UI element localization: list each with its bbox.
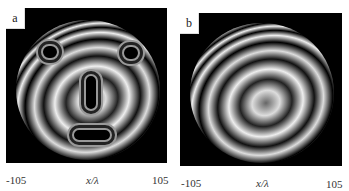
x-axis-max-b: 105 <box>326 178 343 190</box>
x-axis-min-a: -105 <box>6 174 26 186</box>
fringe-pattern-b <box>180 13 342 166</box>
panel-label-a: a <box>6 8 25 29</box>
x-axis-title-a: x/λ <box>86 174 99 186</box>
x-axis-min-b: -105 <box>181 177 201 189</box>
fringe-panel-b: b <box>180 13 342 166</box>
x-axis-title-b: x/λ <box>256 177 269 189</box>
fringe-pattern-a <box>6 8 167 163</box>
outlined-region-top-left <box>37 40 63 64</box>
outlined-region-top-right <box>118 41 144 65</box>
x-axis-max-a: 105 <box>152 174 169 186</box>
outlined-region-bottom-horizontal <box>68 124 116 146</box>
panel-label-b: b <box>180 13 199 34</box>
fringe-panel-a: a <box>6 8 167 163</box>
outlined-region-center-vertical <box>80 70 102 115</box>
